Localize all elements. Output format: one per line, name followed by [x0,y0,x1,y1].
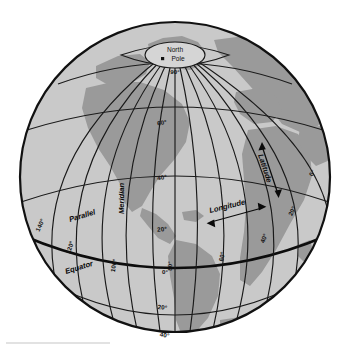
lon-label-80: 80° [166,261,173,271]
scan-edge-artifact [6,342,110,344]
globe-diagram: North Pole 90° 60° 40° 20° 0° 20° 40° 14… [0,0,345,349]
globe-svg: North Pole 90° 60° 40° 20° 0° 20° 40° 14… [0,0,345,349]
lat-label-20n: 20° [157,225,168,233]
lat-label-90n: 90° [170,68,180,75]
pole-dot [161,57,164,60]
lat-label-40s: 40° [159,330,170,339]
lat-label-20s: 20° [157,303,168,311]
north-pole-label-line1: North [167,46,183,53]
annotation-meridian: Meridian [117,182,126,214]
north-pole-label-line2: Pole [171,55,185,62]
lat-label-40n: 40° [157,173,168,181]
